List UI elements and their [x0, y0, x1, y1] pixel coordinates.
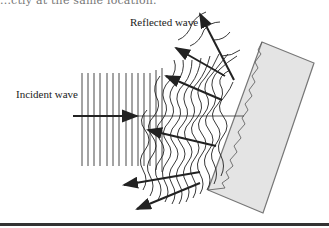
- wave-reflection-diagram: [0, 0, 329, 228]
- horizontal-rule: [0, 223, 329, 226]
- reflecting-slab: [208, 42, 314, 213]
- incident-wave-label: Incident wave: [16, 88, 78, 100]
- incident-wavefronts: [82, 68, 162, 172]
- reflected-wave-label: Reflected wave: [130, 16, 198, 28]
- reflected-arrow-6: [137, 183, 200, 209]
